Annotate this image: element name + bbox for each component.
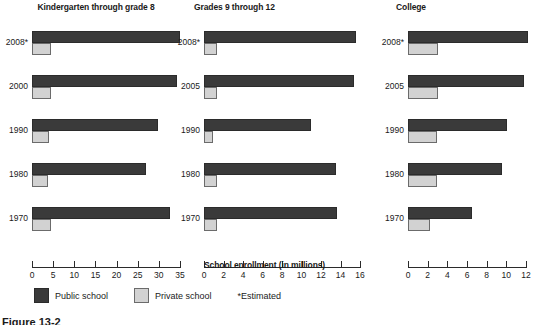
axis-tick-label: 2 — [425, 270, 430, 280]
panel-title: College — [372, 0, 537, 14]
figure-caption: Figure 13-2 — [2, 316, 61, 325]
year-label: 2005 — [170, 81, 200, 91]
public-school-bar — [204, 207, 337, 219]
x-axis-caption: School enrollment (in millions) — [204, 260, 325, 270]
year-label: 2008* — [372, 37, 404, 47]
legend-label-public: Public school — [55, 291, 108, 301]
public-school-bar — [204, 75, 354, 87]
axis-tick — [32, 261, 33, 268]
axis-tick-label: 5 — [51, 270, 56, 280]
axis-tick — [74, 261, 75, 268]
axis-line — [32, 267, 180, 268]
year-label: 1980 — [170, 169, 200, 179]
axis-tick-label: 25 — [133, 270, 142, 280]
public-school-bar — [204, 163, 336, 175]
chart-panel-kindergarten-grade8: Kindergarten through grade 8 2008*200019… — [0, 0, 186, 14]
year-label: 2005 — [372, 81, 404, 91]
bar-group: 1970 — [0, 205, 186, 249]
axis-tick — [428, 261, 429, 268]
private-school-bar — [408, 131, 437, 143]
bar-group: 1970 — [170, 205, 370, 249]
private-school-bar — [204, 131, 213, 143]
year-label: 1990 — [372, 125, 404, 135]
public-school-bar — [408, 75, 524, 87]
axis-tick — [53, 261, 54, 268]
axis-tick-label: 6 — [465, 270, 470, 280]
year-label: 2008* — [170, 37, 200, 47]
axis-tick-label: 35 — [175, 270, 184, 280]
private-school-bar — [32, 43, 51, 55]
public-school-bar — [32, 31, 180, 43]
axis-tick — [526, 261, 527, 268]
axis-tick — [180, 261, 181, 268]
axis-tick-label: 6 — [260, 270, 265, 280]
private-school-bar — [408, 43, 438, 55]
private-school-bar — [204, 175, 217, 187]
private-school-bar — [32, 219, 51, 231]
axis-tick-label: 4 — [445, 270, 450, 280]
axis-tick — [360, 261, 361, 268]
private-school-bar — [408, 175, 437, 187]
public-school-bar — [204, 31, 356, 43]
public-school-bar — [408, 207, 472, 219]
axis-tick-label: 0 — [406, 270, 411, 280]
panel-title: Grades 9 through 12 — [170, 0, 370, 14]
public-school-bar — [408, 119, 507, 131]
public-school-bar — [32, 163, 146, 175]
axis-tick-label: 0 — [30, 270, 35, 280]
public-school-bar — [204, 119, 311, 131]
public-school-bar — [32, 75, 177, 87]
legend-item-private: Private school — [134, 288, 212, 303]
bar-group: 1990 — [170, 117, 370, 161]
bar-group: 2008* — [170, 29, 370, 73]
axis-tick-label: 20 — [112, 270, 121, 280]
bar-group: 1980 — [372, 161, 537, 205]
year-label: 2000 — [0, 81, 28, 91]
public-school-bar — [32, 119, 158, 131]
public-school-bar — [408, 163, 502, 175]
bar-group: 1970 — [372, 205, 537, 249]
axis-tick-label: 12 — [521, 270, 530, 280]
chart-panel-college: College 2008*2005199019801970024681012 — [372, 0, 537, 14]
axis-tick-label: 16 — [355, 270, 364, 280]
public-school-bar — [408, 31, 528, 43]
x-axis: 024681012 — [408, 267, 526, 293]
bar-group: 2000 — [0, 73, 186, 117]
bar-group: 2005 — [372, 73, 537, 117]
axis-tick — [95, 261, 96, 268]
private-school-bar — [32, 131, 49, 143]
axis-tick — [408, 261, 409, 268]
axis-tick — [117, 261, 118, 268]
bar-group: 1980 — [170, 161, 370, 205]
private-school-bar — [204, 43, 217, 55]
legend-item-public: Public school — [34, 288, 108, 303]
year-label: 2008* — [0, 37, 28, 47]
axis-tick-label: 2 — [221, 270, 226, 280]
bar-group: 1990 — [372, 117, 537, 161]
year-label: 1980 — [0, 169, 28, 179]
public-school-bar — [32, 207, 170, 219]
axis-tick-label: 10 — [297, 270, 306, 280]
axis-tick — [487, 261, 488, 268]
axis-tick — [138, 261, 139, 268]
bar-group: 1980 — [0, 161, 186, 205]
chart-legend: Public school Private school *Estimated — [34, 288, 281, 303]
axis-tick-label: 10 — [70, 270, 79, 280]
bar-group: 2008* — [0, 29, 186, 73]
chart-panel-grades9-12: Grades 9 through 12 2008*200519901980197… — [170, 0, 370, 14]
private-school-bar — [204, 87, 217, 99]
axis-tick-label: 4 — [241, 270, 246, 280]
axis-tick — [447, 261, 448, 268]
bar-group: 2005 — [170, 73, 370, 117]
axis-tick — [506, 261, 507, 268]
axis-tick-label: 15 — [91, 270, 100, 280]
bar-group: 1990 — [0, 117, 186, 161]
private-school-bar — [408, 87, 438, 99]
axis-tick — [467, 261, 468, 268]
axis-tick-label: 8 — [484, 270, 489, 280]
private-school-swatch — [134, 288, 149, 303]
axis-tick — [159, 261, 160, 268]
axis-tick-label: 10 — [502, 270, 511, 280]
year-label: 1970 — [0, 213, 28, 223]
year-label: 1980 — [372, 169, 404, 179]
